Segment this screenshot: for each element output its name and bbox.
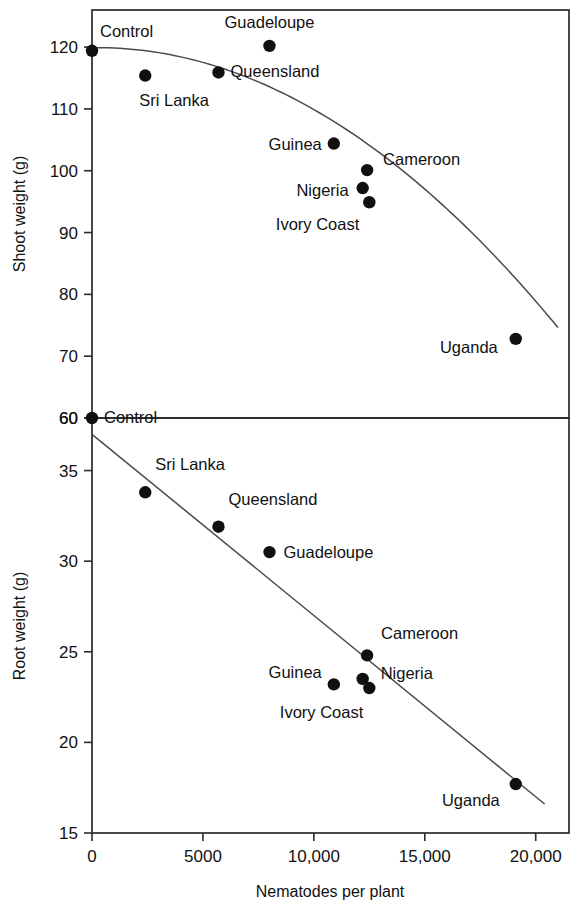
x-axis-tick-labels: 0500010,00015,00020,000 <box>87 847 561 866</box>
top-panel-y-axis-title: Shoot weight (g) <box>11 156 28 273</box>
bottom-panel: 603530252015 ControlSri LankaQueenslandG… <box>11 408 569 843</box>
point-label-guadeloupe: Guadeloupe <box>283 543 373 561</box>
point-label-ivory-coast: Ivory Coast <box>280 703 364 721</box>
bottom-y-tick-label: 35 <box>59 462 78 481</box>
point-label-control: Control <box>104 408 157 426</box>
data-point-ivory-coast <box>363 196 375 208</box>
point-label-sri-lanka: Sri Lanka <box>155 455 226 473</box>
top-y-tick-label: 80 <box>59 285 78 304</box>
top-y-tick-label: 70 <box>59 347 78 366</box>
data-point-uganda <box>510 333 522 345</box>
bottom-panel-frame <box>92 418 569 833</box>
bottom-y-tick-label: 15 <box>59 824 78 843</box>
x-tick-label: 5000 <box>184 847 222 866</box>
point-label-queensland: Queensland <box>228 490 317 508</box>
data-point-sri-lanka <box>139 486 151 498</box>
x-tick-label: 0 <box>87 847 96 866</box>
point-label-nigeria: Nigeria <box>381 664 434 682</box>
bottom-panel-point-labels: ControlSri LankaQueenslandGuadeloupeGuin… <box>104 408 501 809</box>
point-label-sri-lanka: Sri Lanka <box>139 91 210 109</box>
panel-boundary-tick-label: 60 <box>59 409 78 428</box>
bottom-panel-points <box>86 412 522 790</box>
data-point-control <box>86 45 98 57</box>
data-point-guadeloupe <box>263 40 275 52</box>
top-panel-ytick-labels: 12011010090807060 <box>50 38 78 428</box>
data-point-sri-lanka <box>139 69 151 81</box>
bottom-panel-yticks <box>84 418 92 833</box>
top-panel-yticks <box>84 47 92 418</box>
figure-root: 12011010090807060 ControlSri LankaQueens… <box>0 0 587 907</box>
top-y-tick-label: 100 <box>50 162 78 181</box>
data-point-queensland <box>212 66 224 78</box>
point-label-cameroon: Cameroon <box>383 150 460 168</box>
x-tick-label: 15,000 <box>399 847 451 866</box>
data-point-uganda <box>510 778 522 790</box>
point-label-nigeria: Nigeria <box>296 181 349 199</box>
x-axis: 0500010,00015,00020,000 Nematodes per pl… <box>87 833 561 900</box>
point-label-guinea: Guinea <box>269 663 323 681</box>
point-label-queensland: Queensland <box>230 62 319 80</box>
x-tick-label: 10,000 <box>288 847 340 866</box>
top-y-tick-label: 90 <box>59 224 78 243</box>
x-axis-ticks <box>92 833 536 841</box>
bottom-panel-ytick-labels: 603530252015 <box>59 409 78 843</box>
top-y-tick-label: 110 <box>51 100 78 119</box>
scatter-figure: 12011010090807060 ControlSri LankaQueens… <box>0 0 587 907</box>
x-axis-title: Nematodes per plant <box>256 883 405 900</box>
bottom-panel-fit-line <box>92 434 545 804</box>
data-point-queensland <box>212 521 224 533</box>
point-label-uganda: Uganda <box>442 791 501 809</box>
top-panel-point-labels: ControlSri LankaQueenslandGuadeloupeGuin… <box>100 13 499 356</box>
data-point-ivory-coast <box>363 682 375 694</box>
point-label-guinea: Guinea <box>269 135 323 153</box>
data-point-guinea <box>328 137 340 149</box>
data-point-cameroon <box>361 649 373 661</box>
bottom-panel-y-axis-title: Root weight (g) <box>11 572 28 681</box>
data-point-guinea <box>328 678 340 690</box>
point-label-cameroon: Cameroon <box>381 624 458 642</box>
point-label-ivory-coast: Ivory Coast <box>276 215 360 233</box>
data-point-nigeria <box>356 182 368 194</box>
top-y-tick-label: 120 <box>50 38 78 57</box>
point-label-guadeloupe: Guadeloupe <box>225 13 315 31</box>
top-panel-frame <box>92 10 569 418</box>
data-point-cameroon <box>361 164 373 176</box>
bottom-y-tick-label: 30 <box>59 552 78 571</box>
point-label-control: Control <box>100 22 153 40</box>
bottom-y-tick-label: 20 <box>59 733 78 752</box>
data-point-guadeloupe <box>263 546 275 558</box>
x-tick-label: 20,000 <box>510 847 562 866</box>
point-label-uganda: Uganda <box>440 338 499 356</box>
data-point-control <box>86 412 98 424</box>
bottom-y-tick-label: 25 <box>59 643 78 662</box>
top-panel: 12011010090807060 ControlSri LankaQueens… <box>11 10 569 428</box>
